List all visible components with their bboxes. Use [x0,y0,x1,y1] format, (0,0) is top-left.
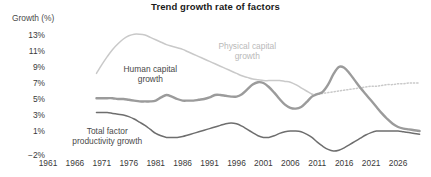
y-axis-tick-labels: 13%11%9%7%5%3%1%−2% [0,27,45,155]
x-axis-tick: 2016 [335,158,354,168]
x-axis-tick: 2026 [389,158,408,168]
y-axis-tick: 9% [33,63,45,72]
x-axis-tick: 2001 [254,158,273,168]
x-axis-tick: 2006 [281,158,300,168]
y-axis-tick: 11% [29,47,45,56]
series-annotation-physical-capital: Physical capital growth [218,41,276,61]
y-axis-label: Growth (%) [12,13,54,23]
y-axis-tick: 3% [33,111,45,120]
series-annotation-human-capital: Human capital growth [124,64,178,84]
x-axis-tick: 1996 [227,158,246,168]
y-axis-tick: 1% [33,127,45,136]
series-annotation-total-factor-productivity: Total factor productivity growth [72,126,142,146]
y-axis-tick: 5% [33,95,45,104]
x-axis-tick: 1986 [173,158,192,168]
x-axis-tick: 1971 [93,158,112,168]
annotation-line-2: growth [218,51,276,61]
x-axis-tick: 2011 [308,158,326,168]
x-axis-tick: 1981 [146,158,165,168]
x-axis-tick: 2021 [362,158,381,168]
x-axis-tick: 1961 [39,158,58,168]
x-axis-tick: 1976 [119,158,138,168]
annotation-line-2: growth [124,74,178,84]
annotation-line-2: productivity growth [72,136,142,146]
annotation-line-1: Total factor [72,126,142,136]
x-axis-tick-labels: 1961196619711976198119861991199620012006… [0,158,431,172]
y-axis-tick: 13% [28,31,45,40]
series-line-total-factor-productivity [96,113,419,151]
x-axis-tick: 1966 [66,158,85,168]
chart-title: Trend growth rate of factors [0,1,431,12]
chart-container: Trend growth rate of factors Growth (%) … [0,0,431,177]
x-axis-tick: 1991 [200,158,219,168]
y-axis-tick: 7% [33,79,45,88]
annotation-line-1: Human capital [124,64,178,74]
annotation-line-1: Physical capital [218,41,276,51]
